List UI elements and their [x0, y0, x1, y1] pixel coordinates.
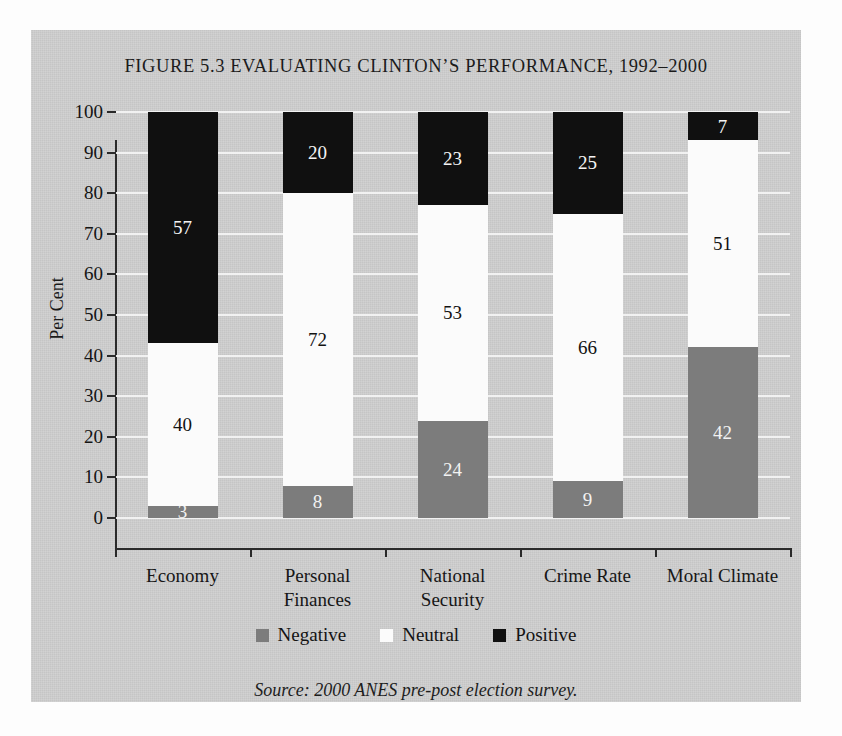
- y-axis-tick-mark: [107, 314, 116, 316]
- bar-group[interactable]: 245323: [418, 112, 488, 518]
- bar-segment-positive[interactable]: 25: [553, 112, 623, 214]
- x-axis-tick-mark: [115, 548, 117, 557]
- y-axis-tick-label: 80: [55, 183, 103, 202]
- bar-group[interactable]: 87220: [283, 112, 353, 518]
- y-axis-tick-mark: [107, 395, 116, 397]
- legend-item[interactable]: Neutral: [380, 624, 459, 646]
- y-axis-tick-label: 70: [55, 224, 103, 243]
- y-axis-tick-mark: [107, 517, 116, 519]
- legend-item[interactable]: Negative: [256, 624, 347, 646]
- plot-area: 34057872202453239662542517: [115, 112, 790, 518]
- x-axis-tick-label-line: Security: [373, 588, 533, 612]
- y-axis-tick-labels: 1009080706050403020100: [41, 30, 103, 702]
- legend-item[interactable]: Positive: [493, 624, 576, 646]
- bar-segment-positive[interactable]: 7: [688, 112, 758, 140]
- x-axis-tick-label: Moral Climate: [643, 564, 803, 588]
- legend-swatch-negative: [256, 629, 269, 642]
- bar-segment-neutral[interactable]: 51: [688, 140, 758, 347]
- page-canvas: FIGURE 5.3 EVALUATING CLINTON’S PERFORMA…: [0, 0, 842, 736]
- y-axis-tick-label: 60: [55, 264, 103, 283]
- bar-segment-neutral[interactable]: 66: [553, 214, 623, 482]
- bar-segment-positive[interactable]: 57: [148, 112, 218, 343]
- y-axis-tick-label: 0: [55, 508, 103, 527]
- bar-segment-neutral[interactable]: 53: [418, 205, 488, 420]
- y-axis-tick-mark: [107, 273, 116, 275]
- bar-segment-negative[interactable]: 3: [148, 506, 218, 518]
- bar-group[interactable]: 96625: [553, 112, 623, 518]
- y-axis-tick-mark: [107, 233, 116, 235]
- y-axis-tick-mark: [107, 355, 116, 357]
- bar-segment-negative[interactable]: 42: [688, 347, 758, 518]
- y-axis-tick-mark: [107, 192, 116, 194]
- legend-swatch-neutral: [380, 629, 393, 642]
- y-axis-tick-label: 100: [55, 102, 103, 121]
- legend-swatch-positive: [493, 629, 506, 642]
- y-axis-tick-label: 20: [55, 427, 103, 446]
- x-axis-tick-mark: [250, 548, 252, 557]
- x-axis-line: [115, 548, 792, 550]
- legend-label: Neutral: [402, 624, 459, 646]
- bar-segment-neutral[interactable]: 72: [283, 193, 353, 485]
- bar-segment-negative[interactable]: 24: [418, 421, 488, 518]
- legend-label: Negative: [278, 624, 347, 646]
- y-axis-tick-label: 90: [55, 143, 103, 162]
- y-axis-tick-label: 40: [55, 346, 103, 365]
- page-title: FIGURE 5.3 EVALUATING CLINTON’S PERFORMA…: [31, 56, 801, 77]
- bar-group[interactable]: 34057: [148, 112, 218, 518]
- y-axis-tick-label: 10: [55, 467, 103, 486]
- x-axis-tick-mark: [655, 548, 657, 557]
- bar-segment-negative[interactable]: 8: [283, 486, 353, 518]
- figure-panel: FIGURE 5.3 EVALUATING CLINTON’S PERFORMA…: [31, 30, 801, 702]
- source-note: Source: 2000 ANES pre-post election surv…: [31, 680, 801, 701]
- bar-segment-neutral[interactable]: 40: [148, 343, 218, 505]
- x-axis-tick-mark: [790, 548, 792, 557]
- y-axis-tick-mark: [107, 152, 116, 154]
- y-axis-tick-mark: [107, 111, 116, 113]
- x-axis-tick-mark: [520, 548, 522, 557]
- legend-label: Positive: [515, 624, 576, 646]
- x-axis-tick-label-line: Moral Climate: [643, 564, 803, 588]
- bar-segment-positive[interactable]: 20: [283, 112, 353, 193]
- bar-segment-positive[interactable]: 23: [418, 112, 488, 205]
- y-axis-tick-mark: [107, 436, 116, 438]
- y-axis-tick-label: 30: [55, 386, 103, 405]
- y-axis-tick-label: 50: [55, 305, 103, 324]
- y-axis-tick-mark: [107, 476, 116, 478]
- chart-legend: NegativeNeutralPositive: [31, 624, 801, 646]
- x-axis-tick-mark: [385, 548, 387, 557]
- bar-segment-negative[interactable]: 9: [553, 481, 623, 518]
- bar-group[interactable]: 42517: [688, 112, 758, 518]
